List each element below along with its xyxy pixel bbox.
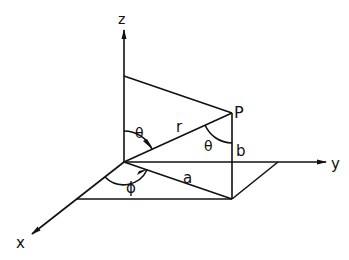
x-axis xyxy=(32,162,124,234)
a-label: a xyxy=(183,169,192,187)
z-projection-line xyxy=(124,76,232,113)
x-axis-label: x xyxy=(16,234,25,252)
radius-label: r xyxy=(176,118,183,136)
phi-label: ϕ xyxy=(126,179,136,197)
z-axis-label: z xyxy=(118,11,125,27)
plane-right-edge xyxy=(232,162,278,199)
theta-label-p: θ xyxy=(204,138,213,154)
horizontal-line-a xyxy=(124,162,232,199)
b-label: b xyxy=(236,142,246,160)
theta-arc-arrowhead xyxy=(143,139,153,150)
point-p-label: P xyxy=(234,103,244,122)
theta-label-origin: θ xyxy=(135,125,144,141)
y-axis-label: y xyxy=(331,155,340,173)
spherical-coordinates-diagram: z y x P r a b θ θ ϕ xyxy=(0,0,349,260)
